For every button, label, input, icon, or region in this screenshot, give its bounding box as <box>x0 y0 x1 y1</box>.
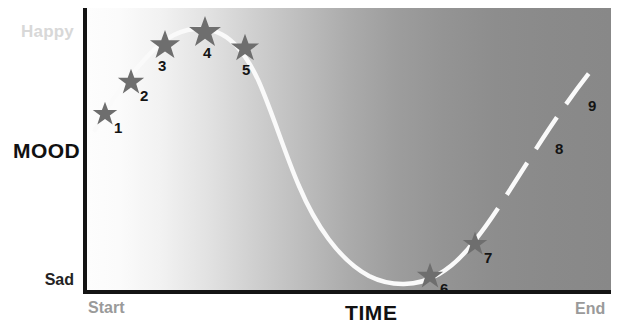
point-label-6: 6 <box>440 281 448 296</box>
curve-and-markers-svg <box>87 8 611 290</box>
point-label-3: 3 <box>158 58 166 73</box>
plot-area <box>87 8 611 290</box>
point-label-4: 4 <box>203 45 211 60</box>
point-label-5: 5 <box>242 62 250 77</box>
point-label-9: 9 <box>588 98 596 113</box>
mood-curve-dashed <box>476 72 590 239</box>
x-axis-line <box>83 290 611 294</box>
mood-time-chart: Happy Sad MOOD Start TIME End 1 2 3 4 5 … <box>0 0 617 335</box>
point-label-7: 7 <box>484 250 492 265</box>
y-axis-top-label: Happy <box>21 23 74 40</box>
y-axis-bottom-label: Sad <box>45 272 74 288</box>
x-axis-title: TIME <box>345 302 398 323</box>
mood-curve-solid <box>95 29 476 284</box>
y-axis-line <box>83 8 87 294</box>
point-label-1: 1 <box>114 120 122 135</box>
x-axis-start-label: Start <box>88 300 124 316</box>
x-axis-end-label: End <box>575 301 605 317</box>
y-axis-title: MOOD <box>13 140 80 161</box>
point-label-8: 8 <box>555 141 563 156</box>
point-label-2: 2 <box>140 88 148 103</box>
